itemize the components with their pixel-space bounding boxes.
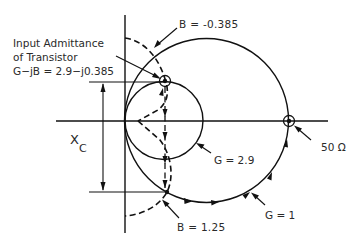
label-b-bottom: B = 1.25: [177, 221, 225, 233]
susceptance-arc-b-neg0-385: [125, 38, 167, 121]
label-input-admittance-line2: of Transistor: [13, 51, 78, 63]
dashed-arc-arrowhead: [159, 88, 164, 96]
g1-path-arrowheads: [184, 139, 288, 206]
dashed-vertical-move: [163, 87, 168, 190]
xc-dimension-arrow: [101, 83, 106, 191]
label-g-2-9: G = 2.9: [214, 154, 254, 166]
smith-chart-diagram: Input Admittance of Transistor G−jB = 2.…: [0, 0, 363, 247]
label-xc: X: [70, 132, 79, 147]
leader-g-2-9: [196, 143, 211, 153]
b1-25-point: [165, 190, 169, 194]
label-xc-subscript: C: [79, 142, 87, 155]
leader-b-bottom: [162, 200, 179, 219]
label-50-ohm: 50 Ω: [321, 141, 346, 153]
leader-g-1: [251, 193, 265, 206]
label-input-admittance-value: G−jB = 2.9−j0.385: [13, 65, 114, 77]
label-input-admittance-line1: Input Admittance: [13, 37, 104, 49]
label-b-top: B = -0.385: [179, 18, 239, 30]
leader-50-ohm: [294, 126, 311, 141]
label-g-1: G = 1: [265, 209, 295, 221]
